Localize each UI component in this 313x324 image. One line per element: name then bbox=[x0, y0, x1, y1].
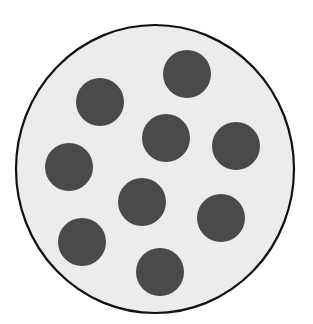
dot-2 bbox=[76, 78, 124, 126]
dot-9 bbox=[136, 248, 184, 296]
dot-5 bbox=[45, 143, 93, 191]
dot-3 bbox=[142, 114, 190, 162]
dot-6 bbox=[118, 178, 166, 226]
dot-7 bbox=[197, 194, 245, 242]
dot-8 bbox=[58, 218, 106, 266]
dots-diagram bbox=[0, 0, 313, 324]
dot-1 bbox=[163, 50, 211, 98]
dot-4 bbox=[212, 122, 260, 170]
